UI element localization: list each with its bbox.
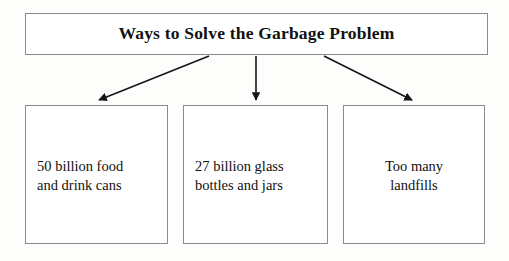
title-node-box: Ways to Solve the Garbage Problem [25,13,488,55]
page-title: Ways to Solve the Garbage Problem [118,24,394,43]
child-node-box-2: 27 billion glass bottles and jars [183,105,328,244]
arrow-to-child-0 [99,56,209,100]
child-node-line-3a: Too many [385,158,443,174]
child-node-text-3: Too many landfills [344,157,484,194]
child-node-line-3b: landfills [390,177,438,193]
child-node-line-2b: bottles and jars [195,177,283,193]
child-node-line-2a: 27 billion glass [195,158,284,174]
child-node-box-1: 50 billion food and drink cans [25,105,168,244]
child-node-line-1a: 50 billion food [37,158,123,174]
garbage-problem-diagram: Ways to Solve the Garbage Problem 50 bil… [0,0,509,261]
child-node-text-1: 50 billion food and drink cans [26,157,167,194]
child-node-box-3: Too many landfills [343,105,485,244]
child-node-line-1b: and drink cans [37,177,122,193]
child-node-text-2: 27 billion glass bottles and jars [184,157,327,194]
arrow-to-child-2 [324,56,412,100]
